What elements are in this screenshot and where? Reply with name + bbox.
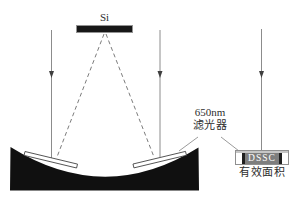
dssc-cell: DSSC [235,150,289,165]
down-arrowhead-icon [49,71,54,78]
dssc-label: DSSC [245,153,279,164]
filter-label: 650nm 滤光器 [186,106,234,131]
si-source-label: Si [76,11,133,24]
si-source-bar [76,25,133,33]
concave-mirror-shape [10,147,199,191]
dssc-effective-area-caption: 有效面积 [233,166,291,179]
incident-ray-center [158,30,163,157]
down-arrowhead-icon [158,71,163,78]
down-arrowhead-icon [259,71,264,78]
filter-label-pointer-right [221,137,239,151]
dssc-cell-inner: DSSC [236,153,288,164]
reflected-ray-left [57,34,104,157]
dssc-end-cap-right [282,153,288,164]
filter-label-line2: 滤光器 [186,119,234,132]
filter-label-line1: 650nm [186,106,234,119]
incident-ray-right [259,29,264,150]
optical-setup-diagram: Si 650nm 滤光器 DSSC 有效面积 [0,0,303,198]
filter-label-pointer-left [179,137,198,151]
reflected-ray-right [106,34,154,157]
incident-ray-left [49,30,54,158]
